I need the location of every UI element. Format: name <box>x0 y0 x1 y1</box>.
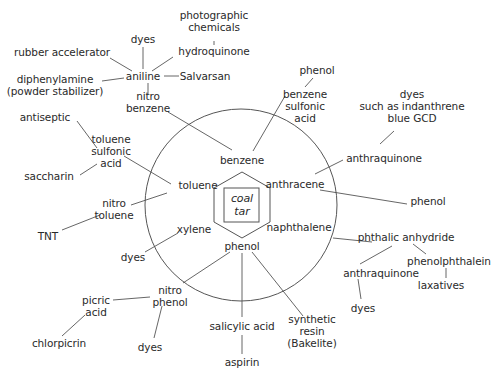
connector-line <box>320 190 407 204</box>
node-toluene-sulfonic-acid: toluene sulfonic acid <box>91 133 131 169</box>
node-rubber-accelerator: rubber accelerator <box>14 46 110 58</box>
node-toluene: toluene <box>179 179 218 191</box>
node-naphthalene: naphthalene <box>266 221 331 233</box>
coal-tar-label: coal tar <box>231 192 253 218</box>
node-xylene: xylene <box>177 223 211 235</box>
node-tnt: TNT <box>38 230 58 242</box>
node-dyes-aniline: dyes <box>131 33 155 45</box>
node-photographic-chemicals: photographic chemicals <box>180 9 249 33</box>
node-phenolphthalein: phenolphthalein <box>407 255 491 267</box>
node-anthraquinone-bottom: anthraquinone <box>343 267 419 279</box>
connector-line <box>102 78 124 81</box>
node-laxatives: laxatives <box>418 279 464 291</box>
connector-line <box>62 315 85 336</box>
connector-line <box>154 306 162 338</box>
connector-line <box>113 297 150 300</box>
node-phthalic-anhydride: phthalic anhydride <box>358 231 455 243</box>
node-nitrophenol: nitro phenol <box>152 284 187 308</box>
node-saccharin: saccharin <box>24 170 74 182</box>
node-nitrotoluene: nitro toluene <box>95 197 134 221</box>
connector-line <box>360 246 392 264</box>
connector-line <box>380 131 394 144</box>
connector-line <box>183 252 230 283</box>
node-antiseptic: antiseptic <box>20 111 71 123</box>
node-synthetic-resin: synthetic resin (Bakelite) <box>287 313 336 349</box>
connector-line <box>315 160 343 174</box>
connector-line <box>413 244 426 254</box>
connector-line <box>152 57 173 71</box>
connector-line <box>131 193 167 205</box>
connector-line <box>358 279 361 299</box>
node-anthraquinone-top: anthraquinone <box>346 152 422 164</box>
node-phenol-top: phenol <box>299 64 334 76</box>
node-aniline: aniline <box>126 70 160 82</box>
coal-tar-diagram: coal tar benzenetolueneanthracenexylenen… <box>0 0 498 378</box>
connector-line <box>124 156 171 184</box>
node-dyes-anthraquinone: dyes <box>351 302 375 314</box>
node-diphenylamine: diphenylamine (powder stabilizer) <box>7 73 103 97</box>
node-benzene: benzene <box>220 154 264 166</box>
node-phenol-center: phenol <box>224 240 259 252</box>
node-anthracene: anthracene <box>266 178 325 190</box>
node-phenol-right: phenol <box>410 195 445 207</box>
node-chlorpicrin: chlorpicrin <box>32 337 86 349</box>
node-dyes-xylene: dyes <box>121 251 145 263</box>
node-picric-acid: picric acid <box>82 294 110 318</box>
node-dyes-indanthrene: dyes such as indanthrene blue GCD <box>360 88 465 124</box>
node-aspirin: aspirin <box>225 356 260 368</box>
node-benzene-sulfonic-acid: benzene sulfonic acid <box>283 88 327 124</box>
node-dyes-nitrophenol: dyes <box>138 341 162 353</box>
node-hydroquinone: hydroquinone <box>178 45 249 57</box>
connector-line <box>253 96 285 151</box>
node-salicylic-acid: salicylic acid <box>209 320 274 332</box>
node-nitrobenzene: nitro benzene <box>126 90 170 114</box>
connector-line <box>305 78 313 87</box>
node-salvarsan: Salvarsan <box>180 70 231 82</box>
